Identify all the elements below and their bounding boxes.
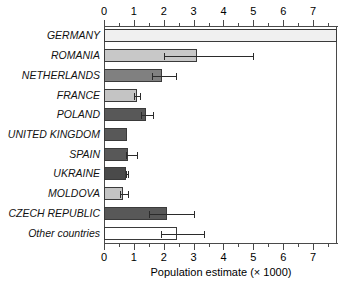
error-bar-cap-high [194,211,195,218]
minor-tick-bottom [298,244,299,247]
major-tick-top [223,20,224,26]
major-tick-bottom [134,244,135,250]
major-tick-bottom [253,244,254,250]
category-label-row: ROMANIA [0,50,100,63]
bar [104,128,127,141]
minor-tick-bottom [238,244,239,247]
error-bar [120,194,127,195]
top-axis-line [104,26,338,27]
error-bar [161,234,204,235]
major-tick-top [134,20,135,26]
category-label-row: MOLDOVA [0,188,100,201]
major-tick-top [253,20,254,26]
tick-label-top-4: 4 [213,6,233,17]
major-tick-bottom [194,244,195,250]
major-tick-bottom [164,244,165,250]
bar [104,29,337,42]
category-label-row: Other countries [0,228,100,241]
bar-chart-figure: 0011223344556677 GERMANYROMANIANETHERLAN… [0,0,354,285]
minor-tick-top [298,23,299,26]
minor-tick-top [179,23,180,26]
major-tick-top [164,20,165,26]
tick-label-top-0: 0 [94,6,114,17]
error-bar-cap-high [253,53,254,60]
error-bar [126,155,136,156]
category-label-row: GERMANY [0,30,100,43]
category-label-row: POLAND [0,109,100,122]
error-bar-cap-low [161,231,162,238]
minor-tick-top [119,23,120,26]
category-label: ROMANIA [0,50,100,61]
tick-label-bottom-6: 6 [273,252,293,263]
error-bar-cap-high [128,171,129,178]
category-label: UNITED KINGDOM [0,129,100,140]
error-bar-cap-low [126,152,127,159]
tick-label-top-2: 2 [154,6,174,17]
error-bar-cap-low [134,93,135,100]
tick-label-bottom-2: 2 [154,252,174,263]
error-bar-cap-high [204,231,205,238]
major-tick-top [194,20,195,26]
minor-tick-bottom [209,244,210,247]
major-tick-bottom [223,244,224,250]
bar [104,108,146,121]
minor-tick-bottom [149,244,150,247]
bar [104,167,126,180]
tick-label-top-3: 3 [184,6,204,17]
error-bar [164,56,254,57]
minor-tick-top [268,23,269,26]
category-label: POLAND [0,109,100,120]
error-bar-cap-high [140,93,141,100]
error-bar-cap-low [120,191,121,198]
minor-tick-bottom [119,244,120,247]
error-bar-cap-high [176,73,177,80]
category-label: NETHERLANDS [0,70,100,81]
error-bar-cap-low [141,112,142,119]
category-label: UKRAINE [0,168,100,179]
minor-tick-top [149,23,150,26]
error-bar-cap-low [126,171,127,178]
minor-tick-bottom [179,244,180,247]
error-bar-cap-high [128,191,129,198]
category-label: CZECH REPUBLIC [0,208,100,219]
category-label-row: FRANCE [0,90,100,103]
error-bar [152,76,176,77]
error-bar-cap-low [152,73,153,80]
major-tick-bottom [283,244,284,250]
error-bar [149,214,194,215]
category-label-row: CZECH REPUBLIC [0,208,100,221]
category-label: SPAIN [0,149,100,160]
category-label-row: UNITED KINGDOM [0,129,100,142]
x-axis-title: Population estimate (× 1000) [104,266,338,278]
tick-label-bottom-0: 0 [94,252,114,263]
minor-tick-top [209,23,210,26]
error-bar-cap-low [149,211,150,218]
tick-label-bottom-5: 5 [243,252,263,263]
category-label: FRANCE [0,90,100,101]
tick-label-top-6: 6 [273,6,293,17]
tick-label-top-5: 5 [243,6,263,17]
tick-label-bottom-1: 1 [124,252,144,263]
major-tick-bottom [313,244,314,250]
tick-label-top-7: 7 [303,6,323,17]
bottom-axis-line [104,243,338,244]
major-tick-top [283,20,284,26]
minor-tick-top [238,23,239,26]
tick-label-bottom-4: 4 [213,252,233,263]
major-tick-top [104,20,105,26]
error-bar-cap-high [153,112,154,119]
minor-tick-bottom [268,244,269,247]
category-label: MOLDOVA [0,188,100,199]
category-label: Other countries [0,228,100,239]
category-label-row: SPAIN [0,149,100,162]
error-bar-cap-high [137,152,138,159]
bar [104,89,137,102]
minor-tick-top [328,23,329,26]
major-tick-top [313,20,314,26]
error-bar [141,115,152,116]
bar [104,148,128,161]
major-tick-bottom [104,244,105,250]
category-label: GERMANY [0,30,100,41]
minor-tick-bottom [328,244,329,247]
tick-label-top-1: 1 [124,6,144,17]
